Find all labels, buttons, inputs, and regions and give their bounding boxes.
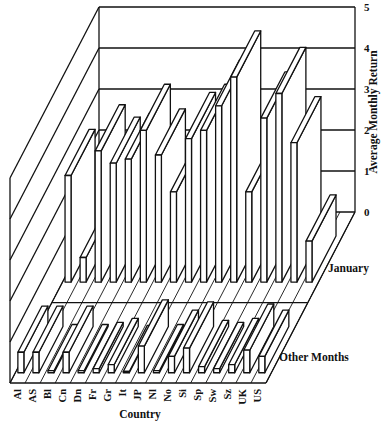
x-tick-label: Sz [222, 389, 233, 400]
row-label-january: January [328, 262, 369, 275]
bar-front-face [186, 139, 192, 282]
bar-front-face [80, 258, 86, 283]
bar-front-face [170, 192, 176, 282]
bar-front-face [138, 346, 144, 373]
bar-front-face [291, 143, 297, 282]
x-tick-label: US [252, 389, 263, 403]
y-axis-label: Average Monthly Return [367, 50, 380, 174]
bar-front-face [63, 352, 69, 373]
row-label-other-months: Other Months [279, 351, 349, 363]
x-tick-label: Gr [102, 389, 113, 402]
bar-front-face [110, 163, 116, 282]
x-tick-label: Si [177, 389, 188, 398]
bar-front-face [123, 372, 129, 373]
bar-front-face [93, 369, 99, 373]
x-tick-label: JP [132, 388, 143, 400]
y-tick-label: 5 [364, 1, 370, 13]
x-tick-label: No [162, 389, 173, 402]
bar-front-face [155, 155, 161, 282]
x-tick-label: AS [27, 389, 38, 403]
bar-front-face [261, 118, 267, 282]
bar-front-face [153, 371, 159, 373]
x-tick-label: Sw [207, 389, 218, 403]
x-tick-label: Nl [147, 389, 158, 400]
bar-front-face [244, 350, 250, 373]
bar-front-face [33, 352, 39, 373]
x-tick-label: Sp [192, 389, 203, 401]
x-tick-label: Bl [42, 389, 53, 399]
x-tick-label: Dn [72, 389, 83, 403]
bar-front-face [276, 94, 282, 283]
bar-front-face [201, 130, 207, 282]
bar-front-face [229, 365, 235, 373]
x-axis-label: Country [119, 408, 161, 421]
x-axis-ticks: AlASBlCnDnFrGrItJPNlNoSiSpSwSzUKUS [12, 388, 264, 405]
y-tick-label: 0 [364, 206, 370, 218]
x-tick-label: Fr [87, 389, 98, 400]
bar-front-face [216, 106, 222, 282]
bar-front-face [214, 369, 220, 373]
x-tick-label: Al [12, 389, 23, 400]
bar-front-face [95, 151, 101, 282]
3d-bar-chart: 012345 AlASBlCnDnFrGrItJPNlNoSiSpSwSzUKU… [0, 0, 384, 428]
bar-front-face [65, 176, 71, 283]
x-tick-label: Cn [57, 389, 68, 403]
bar-front-face [231, 77, 237, 282]
bar-front-face [199, 367, 205, 373]
bar-front-face [18, 352, 24, 373]
bar-front-face [125, 159, 131, 282]
bar-front-face [168, 356, 174, 372]
bar-front-face [140, 130, 146, 282]
bar-front-face [48, 371, 54, 373]
bar-front-face [259, 356, 265, 372]
bar-front-face [306, 241, 312, 282]
bar-front-face [108, 365, 114, 373]
x-tick-label: It [117, 389, 128, 397]
chart-canvas: 012345 AlASBlCnDnFrGrItJPNlNoSiSpSwSzUKU… [0, 0, 384, 428]
x-tick-label: UK [237, 388, 248, 405]
bar-front-face [78, 371, 84, 373]
bar-front-face [184, 348, 190, 373]
bar-front-face [246, 192, 252, 282]
bars-january [65, 31, 336, 282]
